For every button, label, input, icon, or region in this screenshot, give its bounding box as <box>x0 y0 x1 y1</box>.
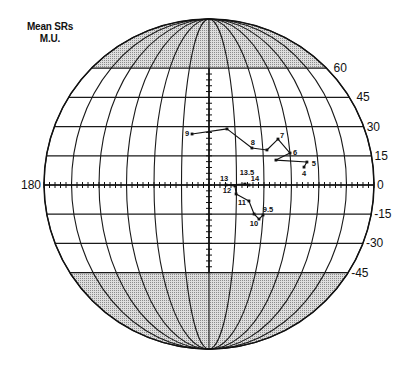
data-point <box>235 193 238 196</box>
point-label: 4 <box>302 169 307 178</box>
point-label: 9.5 <box>263 205 273 214</box>
chart-container: 4567899.51011121313.514 60453015-15-30-4… <box>0 0 410 369</box>
shaded-cap-south <box>0 273 410 369</box>
y-tick-label: 30 <box>367 120 381 134</box>
y-tick-label: 60 <box>334 61 348 75</box>
data-point <box>251 147 254 150</box>
data-point <box>244 183 247 186</box>
point-label: 14 <box>251 174 260 183</box>
data-point <box>266 149 269 152</box>
globe-plot: 4567899.51011121313.514 60453015-15-30-4… <box>0 0 410 369</box>
data-point <box>275 159 278 162</box>
chart-title: Mean SRs M.U. <box>22 21 78 45</box>
point-label: 13 <box>220 174 228 183</box>
y-tick-label: 45 <box>356 90 370 104</box>
point-label: 9 <box>185 129 189 138</box>
axes <box>44 68 374 272</box>
point-label: 12 <box>223 186 231 195</box>
point-label: 10 <box>250 219 258 228</box>
data-point <box>248 184 251 187</box>
y-tick-label: -45 <box>351 266 369 280</box>
data-point <box>306 161 309 164</box>
data-point <box>289 152 292 155</box>
series-track-9.5-to-14: 9.51011121313.514 <box>220 168 273 228</box>
data-point <box>234 185 237 188</box>
y-tick-label: -30 <box>366 236 384 250</box>
point-label: 7 <box>280 131 284 140</box>
point-label: 11 <box>238 198 246 207</box>
data-point <box>248 200 251 203</box>
point-label: 6 <box>293 148 297 157</box>
point-label: 8 <box>251 138 255 147</box>
data-series: 4567899.51011121313.514 <box>185 128 316 228</box>
y-tick-label: 15 <box>375 149 389 163</box>
data-point <box>253 213 256 216</box>
data-point <box>225 184 228 187</box>
title-line-2: M.U. <box>22 33 78 45</box>
y-tick-label: -15 <box>374 207 392 221</box>
data-point <box>191 133 194 136</box>
data-point <box>226 128 229 131</box>
title-line-1: Mean SRs <box>22 21 78 33</box>
point-label: 5 <box>312 159 316 168</box>
x-tick-label: 180 <box>21 178 41 192</box>
x-tick-label: 0 <box>377 178 384 192</box>
